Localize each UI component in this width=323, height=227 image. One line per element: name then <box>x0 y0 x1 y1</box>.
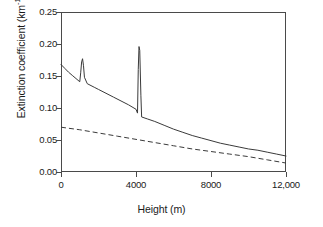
plot-canvas <box>61 12 286 172</box>
chart-figure: 0.000.050.100.150.200.25 04000800012,000… <box>0 0 323 227</box>
x-axis-title: Height (m) <box>0 203 323 215</box>
x-tick-mark <box>286 172 287 177</box>
y-tick-label: 0.00 <box>21 167 57 177</box>
y-tick-mark <box>56 108 61 109</box>
x-tick-mark <box>211 172 212 177</box>
x-tick-label: 0 <box>58 180 63 190</box>
series-dashed-curve <box>61 127 286 163</box>
x-tick-mark <box>61 172 62 177</box>
y-tick-mark <box>56 12 61 13</box>
x-tick-mark <box>136 172 137 177</box>
y-tick-mark <box>56 76 61 77</box>
y-axis-title-main: Extinction coefficient (km <box>15 5 27 118</box>
y-axis-title: Extinction coefficient (km-1) <box>13 0 27 147</box>
y-tick-mark <box>56 140 61 141</box>
y-axis-title-exponent: -1 <box>13 0 22 5</box>
x-tick-label: 4000 <box>126 180 146 190</box>
x-tick-label: 12,000 <box>272 180 300 190</box>
y-tick-mark <box>56 44 61 45</box>
series-solid-curve <box>61 47 286 156</box>
x-tick-label: 8000 <box>201 180 221 190</box>
